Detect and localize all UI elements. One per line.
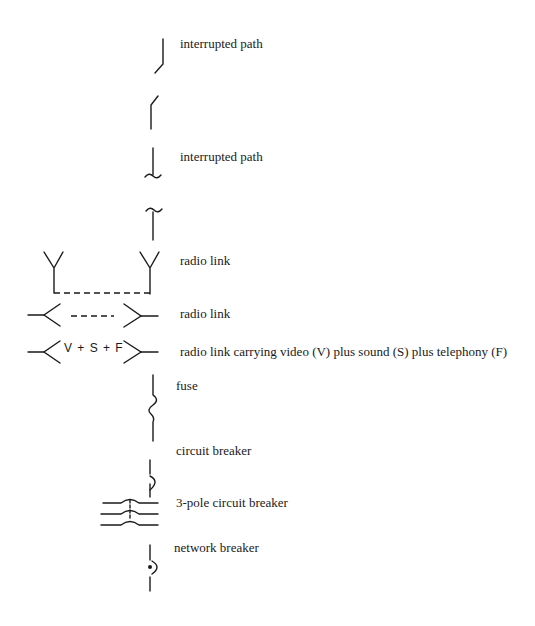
label-network-breaker: network breaker — [174, 541, 259, 554]
interrupted-path-symbol-1 — [155, 39, 163, 73]
three-pole-circuit-breaker-symbol — [101, 500, 158, 526]
symbols-layer — [0, 0, 535, 626]
radio-link-antennas-symbol — [44, 252, 159, 294]
fuse-symbol — [149, 375, 157, 441]
label-radio-link-horizontal: radio link — [180, 307, 230, 320]
radio-link-horizontal-symbol — [28, 304, 158, 327]
vsf-inline-text: V + S + F — [63, 342, 125, 354]
label-circuit-breaker: circuit breaker — [176, 444, 251, 457]
label-interrupted-path-1: interrupted path — [180, 37, 263, 50]
network-breaker-symbol — [148, 545, 157, 591]
interrupted-path-symbol-2 — [145, 148, 161, 178]
label-radio-link-antennas: radio link — [180, 254, 230, 267]
interrupted-path-counterpart-symbol-2 — [146, 208, 162, 240]
interrupted-path-counterpart-symbol-1 — [151, 96, 158, 129]
circuit-breaker-symbol — [150, 460, 155, 497]
symbol-legend-diagram: V + S + F interrupted path interrupted p… — [0, 0, 535, 626]
label-three-pole-circuit-breaker: 3-pole circuit breaker — [176, 496, 288, 509]
label-fuse: fuse — [176, 379, 198, 392]
label-interrupted-path-2: interrupted path — [180, 150, 263, 163]
label-radio-link-vsf: radio link carrying video (V) plus sound… — [180, 345, 507, 358]
